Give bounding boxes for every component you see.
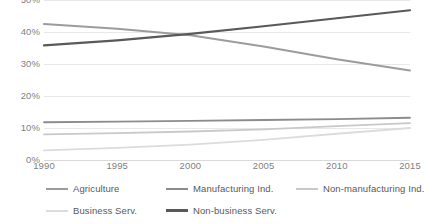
chart-legend: AgricultureManufacturing Ind.Non-manufac… [0,180,418,224]
x-axis: 199019952000200520102015 [44,160,410,174]
x-tick-label: 2015 [399,160,421,172]
y-axis: 0%10%20%30%40%50% [0,0,40,160]
series-lines [44,0,410,160]
legend-swatch-icon [296,188,318,190]
series-line [44,118,410,122]
legend-item[interactable]: Business Serv. [46,205,137,216]
legend-label: Manufacturing Ind. [193,183,274,194]
y-tick-label: 10% [0,123,40,133]
legend-label: Non-business Serv. [193,205,277,216]
x-tick-label: 2005 [253,160,275,172]
legend-label: Business Serv. [73,205,137,216]
legend-swatch-icon [166,209,188,212]
plot-region: 0%10%20%30%40%50% 1990199520002005201020… [0,0,418,172]
x-tick-label: 2010 [326,160,348,172]
legend-swatch-icon [46,210,68,212]
y-tick-label: 40% [0,27,40,37]
y-tick-label: 50% [0,0,40,5]
x-tick-label: 1990 [33,160,55,172]
legend-item[interactable]: Manufacturing Ind. [166,183,274,194]
legend-item[interactable]: Agriculture [46,183,120,194]
series-svg [44,0,410,160]
legend-label: Non-manufacturing Ind. [323,183,424,194]
legend-item[interactable]: Non-manufacturing Ind. [296,183,424,194]
legend-swatch-icon [166,188,188,190]
y-tick-label: 30% [0,59,40,69]
x-tick-label: 2000 [180,160,202,172]
series-line [44,128,410,150]
y-tick-label: 20% [0,91,40,101]
legend-swatch-icon [46,188,68,190]
legend-label: Agriculture [73,183,120,194]
legend-item[interactable]: Non-business Serv. [166,205,277,216]
x-tick-label: 1995 [106,160,128,172]
